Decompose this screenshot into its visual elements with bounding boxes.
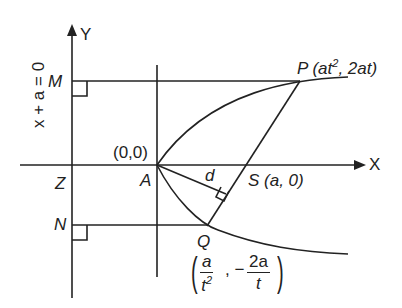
- origin-label: (0,0): [113, 144, 148, 161]
- open-paren: (: [191, 252, 198, 292]
- point-A-label: A: [140, 172, 151, 189]
- directrix-label: x + a = 0: [30, 62, 47, 128]
- point-Q-coords: ( a t2 , − 2a t ): [191, 250, 291, 300]
- x-axis-label: X: [369, 156, 380, 173]
- point-Q-label: Q: [197, 233, 210, 250]
- focal-chord-PQ: [207, 81, 300, 226]
- point-P-coords: (at2, 2at): [312, 59, 377, 78]
- right-angle-N-icon: [72, 225, 87, 240]
- point-N-label: N: [54, 216, 66, 233]
- close-paren: ): [277, 252, 284, 292]
- point-Z-label: Z: [55, 175, 65, 192]
- point-M-label: M: [48, 73, 62, 90]
- right-angle-M-icon: [72, 81, 87, 96]
- x-axis-arrow-icon: [354, 160, 366, 170]
- point-P-name: P: [297, 59, 308, 78]
- q-separator: , −: [225, 261, 244, 278]
- perpendicular-d: [157, 165, 226, 194]
- distance-d-label: d: [205, 167, 214, 184]
- y-axis-label: Y: [80, 26, 91, 43]
- y-axis-arrow-icon: [67, 24, 77, 36]
- q-x-fraction: a t2: [200, 253, 213, 294]
- point-S-label: S (a, 0): [248, 172, 304, 189]
- right-angle-d-icon: [216, 187, 229, 201]
- point-P-label: P (at2, 2at): [297, 58, 377, 77]
- q-y-fraction: 2a t: [247, 253, 270, 292]
